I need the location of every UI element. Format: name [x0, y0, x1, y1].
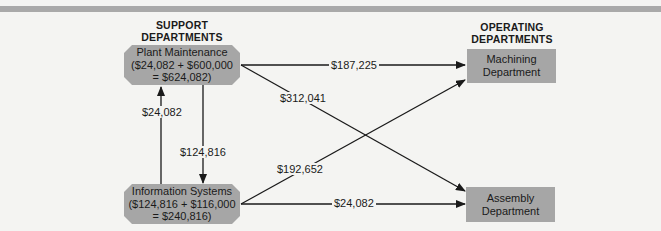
machining-department-node: Machining Department [467, 49, 556, 83]
heading-line: SUPPORT [130, 19, 234, 31]
node-total: = $240,816) [124, 210, 240, 223]
heading-line: DEPARTMENTS [460, 33, 564, 45]
assembly-department-node: Assembly Department [466, 187, 555, 222]
flow-label-is-to-pm: $24,082 [140, 106, 184, 118]
node-title: Assembly [466, 192, 555, 205]
heading-line: DEPARTMENTS [130, 31, 234, 43]
flow-label-is-to-assembly: $24,082 [332, 197, 376, 209]
node-title: Information Systems [124, 185, 240, 198]
plant-maintenance-node: Plant Maintenance ($24,082 + $600,000 = … [124, 45, 240, 85]
operating-departments-heading: OPERATING DEPARTMENTS [460, 21, 564, 45]
support-departments-heading: SUPPORT DEPARTMENTS [130, 19, 234, 43]
heading-line: OPERATING [460, 21, 564, 33]
flow-label-pm-to-assembly: $312,041 [278, 92, 328, 104]
node-formula: ($124,816 + $116,000 [124, 198, 240, 211]
node-total: = $624,082) [124, 71, 240, 84]
node-subtitle: Department [466, 205, 555, 218]
flow-label-is-to-machining: $192,652 [275, 163, 325, 175]
information-systems-node: Information Systems ($124,816 + $116,000… [124, 184, 240, 224]
arrow-is-to-machining [241, 80, 465, 204]
node-title: Machining [467, 53, 556, 66]
flow-label-pm-to-is: $124,816 [178, 146, 228, 158]
node-subtitle: Department [467, 66, 556, 79]
node-title: Plant Maintenance [124, 46, 240, 59]
flow-label-pm-to-machining: $187,225 [329, 59, 379, 71]
node-formula: ($24,082 + $600,000 [124, 59, 240, 72]
